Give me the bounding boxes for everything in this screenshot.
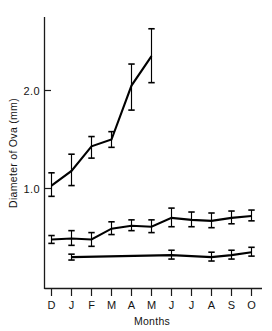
x-tick-label-2: F <box>88 299 95 311</box>
x-tick-label-6: J <box>169 299 175 311</box>
chart-background <box>0 0 272 331</box>
x-tick-label-3: M <box>107 299 116 311</box>
x-tick-label-9: S <box>228 299 235 311</box>
x-tick-label-0: D <box>48 299 56 311</box>
x-axis-title: Months <box>134 315 170 327</box>
x-tick-label-4: A <box>128 299 136 311</box>
y-tick-label-2: 2.0 <box>24 85 41 97</box>
x-tick-label-10: O <box>247 299 256 311</box>
chart-container: 2.0 1.0 Diameter of Ova (mm) D J F M A M <box>0 0 272 331</box>
x-tick-label-7: J <box>189 299 195 311</box>
y-tick-label-1: 1.0 <box>24 183 41 195</box>
y-axis-title: Diameter of Ova (mm) <box>7 98 19 208</box>
x-tick-label-8: A <box>208 299 216 311</box>
x-tick-label-5: M <box>147 299 156 311</box>
ova-diameter-line-chart: 2.0 1.0 Diameter of Ova (mm) D J F M A M <box>0 0 272 331</box>
x-tick-label-1: J <box>69 299 75 311</box>
